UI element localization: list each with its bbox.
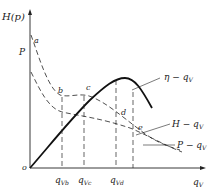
- point-c: c: [86, 83, 91, 92]
- x-tick-qvc: qVc: [78, 175, 92, 186]
- y-axis-arrow-icon: [28, 9, 32, 15]
- x-tick-qvb: qVb: [55, 175, 69, 186]
- leader-lines: [132, 78, 175, 145]
- point-d: d: [121, 108, 126, 117]
- eta-curve: [30, 78, 152, 168]
- origin-label: o: [22, 163, 27, 172]
- x-axis-arrow-icon: [200, 166, 206, 170]
- y-tick-p: P: [18, 47, 26, 57]
- pump-performance-diagram: H(p) P o qV qVb qVc qVd a b c d e η − qV…: [0, 0, 212, 190]
- point-b: b: [58, 86, 63, 95]
- head-curve: [31, 35, 180, 150]
- power-curve-label: P − qV: [176, 140, 207, 151]
- point-e: e: [138, 123, 143, 132]
- point-a: a: [34, 36, 39, 45]
- y-axis-label: H(p): [1, 11, 25, 22]
- x-tick-qvd: qVd: [110, 175, 124, 186]
- x-axis-label: qV: [193, 177, 204, 188]
- eta-curve-label: η − qV: [164, 72, 193, 83]
- head-curve-label: H − qV: [171, 119, 204, 130]
